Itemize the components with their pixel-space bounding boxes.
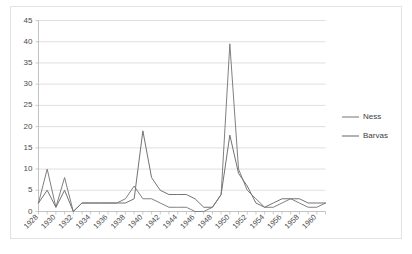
chart-container: 051015202530354045 192819301932193419361… — [0, 0, 412, 254]
y-axis-tick-label: 25 — [24, 100, 33, 109]
y-axis-tick-label: 10 — [24, 164, 33, 173]
y-axis-tick-label: 20 — [24, 122, 33, 131]
y-axis-tick-label: 35 — [24, 58, 33, 67]
x-axis-tick-label: 1930 — [39, 213, 57, 231]
y-axis-tick-labels: 051015202530354045 — [24, 16, 33, 216]
y-axis-tick-label: 30 — [24, 79, 33, 88]
y-axis-tick-label: 5 — [28, 185, 33, 194]
x-axis-tick-label: 1936 — [91, 213, 109, 231]
axis-lines — [39, 21, 326, 212]
x-axis-tick-label: 1940 — [126, 213, 144, 231]
x-axis-tick-label: 1956 — [265, 213, 283, 231]
x-axis-tick-label: 1950 — [213, 213, 231, 231]
legend-label-ness: Ness — [363, 112, 381, 121]
chart-legend: NessBarvas — [342, 112, 388, 140]
y-axis-tick-label: 40 — [24, 37, 33, 46]
x-axis-tick-label: 1946 — [178, 213, 196, 231]
x-axis-tick-label: 1934 — [74, 213, 92, 231]
data-series — [39, 44, 326, 212]
series-line-barvas — [39, 131, 326, 212]
x-axis-tick-labels: 1928193019321934193619381940194219441946… — [22, 213, 318, 231]
x-axis-tick-label: 1938 — [109, 213, 127, 231]
x-axis-tick-label: 1954 — [248, 213, 266, 231]
x-axis-tick-label: 1948 — [196, 213, 214, 231]
y-axis-tick-label: 45 — [24, 16, 33, 25]
x-axis-tick-label: 1944 — [161, 213, 179, 231]
y-axis-tick-label: 15 — [24, 143, 33, 152]
line-chart: 051015202530354045 192819301932193419361… — [0, 0, 412, 254]
legend-label-barvas: Barvas — [363, 131, 388, 140]
axis-tickmarks — [36, 21, 326, 215]
series-line-ness — [39, 44, 326, 212]
x-axis-tick-label: 1928 — [22, 213, 40, 231]
x-axis-tick-label: 1942 — [144, 213, 162, 231]
gridlines — [39, 21, 326, 191]
x-axis-tick-label: 1958 — [283, 213, 301, 231]
x-axis-tick-label: 1960 — [300, 213, 318, 231]
x-axis-tick-label: 1952 — [230, 213, 248, 231]
x-axis-tick-label: 1932 — [57, 213, 75, 231]
